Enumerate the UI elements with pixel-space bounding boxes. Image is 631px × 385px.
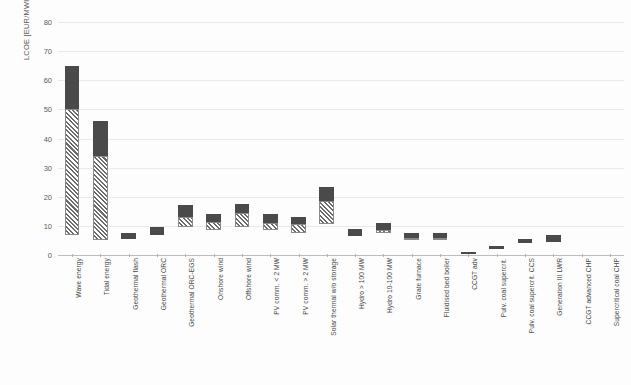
x-axis-tick-labels: Wave energyTidal energyGeothermal flashG… [58,258,624,383]
y-tick-30: 30 [44,163,52,172]
bar-solid [489,22,504,255]
x-tick [440,254,441,257]
x-tick [553,254,554,257]
bar-segment [319,187,334,202]
bar-solid [150,22,165,255]
bar-solid [376,22,391,255]
x-tick-label: Pulv. coal supercrit. CCS [528,258,535,333]
x-tick [525,254,526,257]
y-tick-80: 80 [44,18,52,27]
x-tick [497,254,498,257]
x-tick [468,254,469,257]
y-tick-40: 40 [44,134,52,143]
x-tick-label: CCGT adv [471,258,478,290]
x-tick-label: Tidal energy [103,258,110,295]
y-tick-20: 20 [44,192,52,201]
x-tick-label: Geothermal ORC-EGS [188,258,195,327]
x-tick-label: Hydro 10-100 MW [386,258,393,313]
bar-segment [235,204,250,213]
bar-segment [121,233,136,239]
bar-solid [263,22,278,255]
bar-solid [93,22,108,255]
bar-segment [518,239,533,243]
gridline [58,109,624,110]
x-tick-label: Geothermal flash [132,258,139,310]
bar-solid [235,22,250,255]
x-tick [355,254,356,257]
x-tick-label: Offshore wind [245,258,252,300]
x-tick-label: Hydro > 100 MW [358,258,365,309]
x-tick [270,254,271,257]
gridline [58,168,624,169]
x-tick-label: Onshore wind [217,258,224,300]
bar-segment [150,227,165,234]
x-tick [129,254,130,257]
bar-segment [291,217,306,224]
x-tick [72,254,73,257]
y-axis-tick-labels: 01020304050607080 [0,22,56,255]
bar-segment [93,121,108,156]
bar-solid [546,22,561,255]
bar-segment [263,214,278,223]
bar-solid [404,22,419,255]
x-tick-label: Solar thermal w/o storage [330,258,337,336]
bar-solid [319,22,334,255]
bar-segment [206,214,221,221]
bar-solid [206,22,221,255]
bar-solid [433,22,448,255]
y-tick-70: 70 [44,47,52,56]
bar-solid [121,22,136,255]
x-tick [185,254,186,257]
bar-solid [518,22,533,255]
bar-solid [291,22,306,255]
bar-solid [65,22,80,255]
bar-segment [404,233,419,237]
y-tick-60: 60 [44,76,52,85]
x-axis-line [58,255,624,256]
x-tick-label: Supercritical coal CHP [613,258,620,326]
x-tick [412,254,413,257]
x-tick-label: PV comm. > 2 MW [302,258,309,315]
bar-segment [65,66,80,110]
gridline [58,197,624,198]
bar-segment [376,223,391,230]
chart-figure: LCOE [EUR/MWh] 01020304050607080 Wave en… [0,0,631,385]
x-tick [582,254,583,257]
x-tick-label: Geothermal ORC [160,258,167,310]
bar-solid [461,22,476,255]
gridline [58,51,624,52]
bar-segment [348,229,363,236]
x-tick [299,254,300,257]
x-tick-label: Pulv. coal supercrit. [500,258,507,317]
x-tick-label: CCGT advanced CHP [585,258,592,324]
bar-solid [348,22,363,255]
bar-segment [178,205,193,217]
bar-segment [433,233,448,237]
gridline [58,139,624,140]
x-tick [383,254,384,257]
x-tick-label: Wave energy [75,258,82,298]
x-tick-label: Generation III LWR [556,258,563,316]
y-tick-10: 10 [44,221,52,230]
x-tick-label: PV comm. < 2 MW [273,258,280,315]
x-tick [214,254,215,257]
x-tick [610,254,611,257]
x-tick [100,254,101,257]
bar-segment [489,246,504,248]
x-tick [242,254,243,257]
x-tick [327,254,328,257]
x-tick-label: Fluidised bed boiler [443,258,450,317]
gridline [58,22,624,23]
bar-segment [546,235,561,242]
y-tick-50: 50 [44,105,52,114]
x-tick-label: Grate furnace [415,258,422,300]
gridline [58,226,624,227]
bar-solid [178,22,193,255]
y-tick-0: 0 [48,251,52,260]
plot-area [58,22,624,255]
gridline [58,80,624,81]
x-tick [157,254,158,257]
